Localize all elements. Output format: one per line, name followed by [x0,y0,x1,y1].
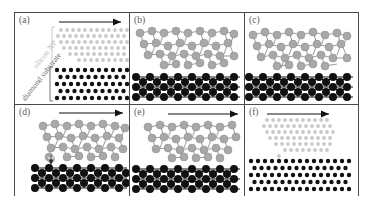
panel-label-b: (b) [134,15,145,26]
slide-arrow-a [59,19,121,26]
panel-b-graphic [130,13,244,104]
panel-d-graphic [15,105,129,196]
figure-frame: (a) silicon NP diamond substrate [14,12,359,196]
slide-arrow-d [59,110,123,117]
nanoparticle-dots-f [262,118,335,158]
panel-label-f: (f) [249,107,259,118]
slide-arrow-f [267,111,329,118]
panel-label-a: (a) [19,15,30,26]
panel-f-graphic [245,105,358,196]
panel-f: (f) [245,105,358,196]
panel-e: (e) [130,105,244,196]
substrate-dots-a [55,68,129,100]
nanoparticle-dots-a [56,28,129,62]
panel-b: (b) [130,13,244,104]
panel-c-graphic [245,13,358,104]
nanoparticle-atoms-b [136,27,238,69]
nanoparticle-atoms-e [144,121,240,162]
nanoparticle-atoms-c [249,28,351,70]
panel-label-d: (d) [19,107,30,118]
panel-label-c: (c) [249,15,260,26]
nanoparticle-atoms-d [39,120,129,161]
panel-a: (a) silicon NP diamond substrate [15,13,129,104]
figure-panel-grid: (a) silicon NP diamond substrate [0,0,373,207]
panel-d: (d) [15,105,129,196]
panel-e-graphic [130,105,244,196]
panel-label-e: (e) [134,107,145,118]
substrate-dots-f [249,159,351,191]
slide-arrow-e [168,111,238,118]
panel-c: (c) [245,13,358,104]
